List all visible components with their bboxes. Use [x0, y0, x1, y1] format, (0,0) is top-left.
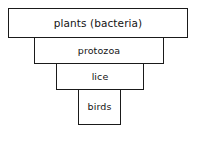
- pyramid-level-lice-label: lice: [92, 72, 109, 82]
- pyramid-level-birds-label: birds: [88, 102, 112, 112]
- pyramid-level-protozoa-label: protozoa: [78, 46, 121, 56]
- pyramid-level-plants-label: plants (bacteria): [54, 18, 143, 29]
- pyramid-level-lice: lice: [56, 64, 144, 90]
- pyramid-level-birds: birds: [78, 90, 121, 125]
- pyramid-level-protozoa: protozoa: [34, 38, 164, 64]
- pyramid-level-plants: plants (bacteria): [8, 8, 188, 38]
- diagram-canvas: plants (bacteria) protozoa lice birds: [0, 0, 197, 143]
